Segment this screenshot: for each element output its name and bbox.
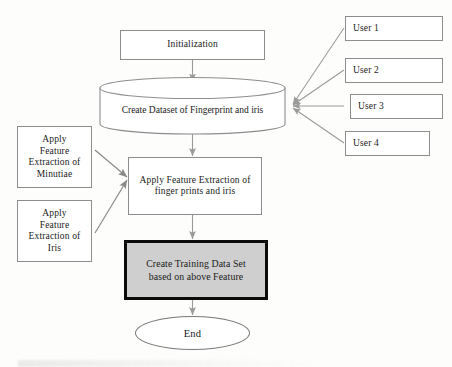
node-user-1[interactable]: User 1 — [345, 16, 443, 41]
node-end[interactable]: End — [135, 316, 250, 350]
edge-minutiae-to-feature-extraction — [95, 150, 127, 177]
iris-line-1: Apply — [42, 208, 67, 220]
node-apply-feature-extraction-iris[interactable]: Apply Feature Extraction of Iris — [17, 200, 92, 262]
edge-iris-to-feature-extraction — [95, 180, 127, 233]
minutiae-line-1: Apply — [42, 134, 67, 146]
edge-user-1-to-dataset — [293, 28, 344, 104]
minutiae-line-2: Feature — [40, 146, 70, 158]
user-3-label: User 3 — [358, 101, 384, 113]
iris-line-2: Feature — [40, 220, 70, 232]
initialization-label: Initialization — [164, 39, 221, 51]
feature-extraction-line-1: Apply Feature Extraction of — [140, 175, 251, 187]
node-initialization[interactable]: Initialization — [120, 30, 265, 60]
dataset-label: Create Dataset of Fingerprint and iris — [119, 105, 267, 115]
scan-artifact — [18, 360, 318, 367]
flowchart-canvas: Initialization Create Dataset of Fingerp… — [0, 0, 452, 367]
user-1-label: User 1 — [353, 23, 379, 35]
training-set-line-2: based on above Feature — [149, 270, 243, 283]
minutiae-line-4: Minutiae — [37, 169, 73, 181]
user-2-label: User 2 — [353, 65, 379, 77]
edge-user-4-to-dataset — [293, 108, 344, 143]
node-user-2[interactable]: User 2 — [345, 58, 443, 83]
iris-line-3: Extraction of — [29, 231, 81, 243]
node-feature-extraction[interactable]: Apply Feature Extraction of finger print… — [128, 157, 262, 215]
iris-line-4: Iris — [48, 243, 61, 255]
node-user-4[interactable]: User 4 — [345, 131, 430, 156]
feature-extraction-line-2: finger prints and iris — [155, 186, 236, 198]
training-set-line-1: Create Training Data Set — [146, 257, 246, 270]
minutiae-line-3: Extraction of — [29, 157, 81, 169]
node-dataset-cylinder[interactable]: Create Dataset of Fingerprint and iris — [100, 77, 285, 135]
node-user-3[interactable]: User 3 — [350, 94, 443, 119]
node-apply-feature-extraction-minutiae[interactable]: Apply Feature Extraction of Minutiae — [17, 126, 92, 188]
user-4-label: User 4 — [353, 138, 379, 150]
node-create-training-data-set[interactable]: Create Training Data Set based on above … — [124, 240, 268, 300]
end-label: End — [184, 328, 202, 339]
edge-user-2-to-dataset — [293, 70, 344, 105]
